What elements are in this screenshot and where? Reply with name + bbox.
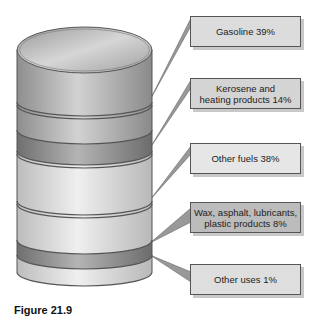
label-other-uses: Other uses 1% [190,264,301,295]
label-kerosene: Kerosene and heating products 14% [190,78,301,109]
label-gasoline: Gasoline 39% [190,16,301,47]
barrel-body [17,27,152,286]
connector-lines [150,18,191,282]
figure-caption: Figure 21.9 [14,304,72,316]
label-other-fuels-text: Other fuels 38% [211,153,279,164]
label-other-uses-text: Other uses 1% [214,274,277,285]
label-other-fuels: Other fuels 38% [190,143,301,174]
label-kerosene-text: Kerosene and heating products 14% [200,83,292,105]
label-wax-asphalt: Wax, asphalt, lubricants, plastic produc… [190,202,301,233]
label-gasoline-text: Gasoline 39% [216,26,275,37]
label-wax-asphalt-text: Wax, asphalt, lubricants, plastic produc… [194,207,297,229]
